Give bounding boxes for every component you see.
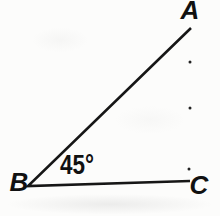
vertex-label-c: C [190,170,210,200]
angle-value-label: 45° [60,149,94,180]
triangle-figure: A B C 45° [0,0,220,216]
ink-dot-artifact [189,107,192,110]
triangle-diagram: A B C 45° [0,0,220,216]
vertex-label-b: B [10,167,29,197]
vertex-label-a: A [180,0,200,25]
triangle-outline [28,28,191,186]
ink-dot-artifact [189,61,192,64]
